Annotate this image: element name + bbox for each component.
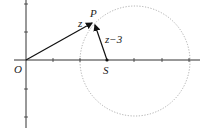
- argand-diagram: P z z−3 O S: [0, 0, 202, 128]
- label-s: S: [103, 64, 109, 76]
- label-o: O: [14, 63, 22, 75]
- label-p: P: [89, 7, 97, 19]
- point-s-dot: [105, 58, 108, 61]
- locus-circle: [80, 6, 190, 116]
- label-z: z: [77, 17, 83, 29]
- label-z-minus-3: z−3: [104, 33, 123, 45]
